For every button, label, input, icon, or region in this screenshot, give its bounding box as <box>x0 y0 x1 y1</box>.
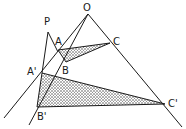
label-b-prime: B' <box>37 112 47 122</box>
label-c-prime: C' <box>168 99 178 109</box>
diagram-canvas: O P A C B A' B' C' <box>0 0 186 129</box>
triangle-a-prime-b-prime-c-prime <box>37 73 165 107</box>
label-a: A <box>55 37 62 47</box>
label-p: P <box>44 17 50 27</box>
triangle-abc <box>58 43 110 62</box>
ray-o-b-b-prime <box>29 14 88 125</box>
label-b: B <box>62 66 69 76</box>
label-a-prime: A' <box>27 67 37 77</box>
label-c: C <box>113 37 120 47</box>
geometry-figure <box>0 0 186 129</box>
ray-o-c-c-prime <box>88 14 182 127</box>
label-o: O <box>83 3 91 13</box>
